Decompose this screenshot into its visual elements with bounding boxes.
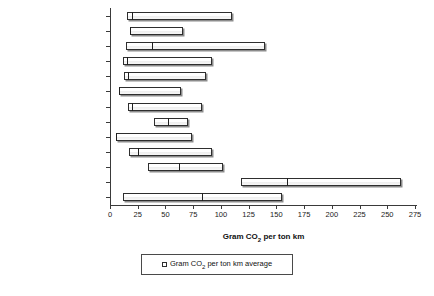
average-marker: [202, 193, 203, 201]
average-marker: [287, 178, 288, 186]
x-axis-tick: [193, 205, 194, 209]
average-marker: [119, 87, 120, 95]
category-tick: [106, 61, 110, 62]
category-tick: [106, 31, 110, 32]
category-tick: [106, 167, 110, 168]
range-bar: [126, 42, 266, 50]
average-marker: [132, 12, 133, 20]
legend-label-suffix: per ton km average: [205, 259, 272, 268]
x-axis-tick-label: 225: [345, 210, 375, 220]
x-axis-tick: [165, 205, 166, 209]
range-bar: [130, 27, 183, 35]
x-axis-title-suffix: per ton km: [261, 232, 304, 241]
average-marker: [130, 27, 131, 35]
x-axis-tick: [304, 205, 305, 209]
legend-swatch-icon: [162, 262, 167, 267]
range-bar: [124, 72, 206, 80]
category-tick: [106, 137, 110, 138]
x-axis-tick: [387, 205, 388, 209]
category-tick: [106, 122, 110, 123]
x-axis-tick-label: 200: [317, 210, 347, 220]
x-axis-tick-label: 275: [400, 210, 430, 220]
x-axis-tick-label: 0: [95, 210, 125, 220]
range-bar: [119, 87, 181, 95]
average-marker: [152, 42, 153, 50]
x-axis-tick: [415, 205, 416, 209]
category-tick: [106, 197, 110, 198]
x-axis-tick-label: 250: [372, 210, 402, 220]
range-bar: [148, 163, 223, 171]
category-tick: [106, 107, 110, 108]
x-axis-title-prefix: Gram CO: [223, 232, 258, 241]
x-axis-tick: [138, 205, 139, 209]
average-marker: [132, 103, 133, 111]
x-axis-tick: [360, 205, 361, 209]
category-tick: [106, 16, 110, 17]
category-tick: [106, 182, 110, 183]
x-axis-tick: [110, 205, 111, 209]
x-axis-tick-label: 150: [261, 210, 291, 220]
x-axis-tick: [332, 205, 333, 209]
range-bar: [116, 133, 193, 141]
average-marker: [116, 133, 117, 141]
x-axis-tick-label: 75: [178, 210, 208, 220]
x-axis-tick-label: 50: [150, 210, 180, 220]
range-bar: [127, 12, 232, 20]
range-bar: [241, 178, 401, 186]
range-bar: [154, 118, 187, 126]
legend-label: Gram CO2 per ton km average: [170, 259, 272, 270]
x-axis-tick: [276, 205, 277, 209]
category-tick: [106, 76, 110, 77]
x-axis-tick-label: 175: [289, 210, 319, 220]
category-tick: [106, 46, 110, 47]
average-marker: [138, 148, 139, 156]
x-axis-line: [110, 205, 417, 206]
x-axis-tick: [221, 205, 222, 209]
range-bar: [123, 57, 212, 65]
x-axis-tick-label: 125: [234, 210, 264, 220]
x-axis-tick-label: 100: [206, 210, 236, 220]
average-marker: [179, 163, 180, 171]
x-axis-title: Gram CO2 per ton km: [110, 232, 417, 243]
legend-label-prefix: Gram CO: [170, 259, 202, 268]
category-tick: [106, 91, 110, 92]
chart-container: 0255075100125150175200225250275 LPGLNGRo…: [0, 0, 434, 296]
x-axis-tick-label: 25: [123, 210, 153, 220]
average-marker: [168, 118, 169, 126]
average-marker: [128, 72, 129, 80]
y-axis-line: [110, 8, 111, 206]
chart-legend: Gram CO2 per ton km average: [141, 254, 293, 275]
range-bar: [129, 148, 212, 156]
average-marker: [127, 57, 128, 65]
category-tick: [106, 152, 110, 153]
x-axis-tick: [249, 205, 250, 209]
range-bar: [128, 103, 202, 111]
